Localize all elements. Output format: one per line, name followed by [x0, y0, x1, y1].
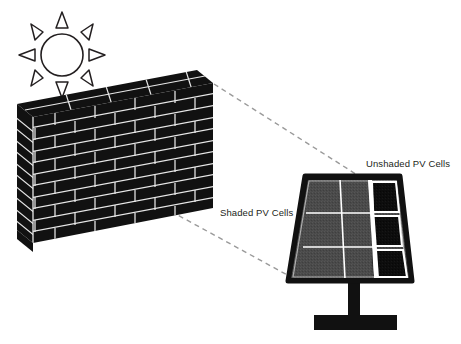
sun-ray-se	[81, 70, 93, 86]
label-unshaded-pv-cells: Unshaded PV Cells	[366, 158, 450, 169]
pv-shading-diagram: Unshaded PV Cells Shaded PV Cells	[0, 0, 461, 344]
brick-wall	[14, 43, 216, 252]
stand-base	[314, 315, 397, 330]
solar-panel	[288, 176, 412, 330]
sun-icon	[19, 12, 105, 98]
label-shaded-pv-cells: Shaded PV Cells	[220, 207, 293, 218]
sun-ray-w	[19, 49, 35, 61]
stand-pole	[348, 281, 360, 318]
sun-ray-sw	[31, 70, 43, 86]
panel-cell-unshaded-1	[370, 182, 398, 211]
diagram-canvas: Unshaded PV Cells Shaded PV Cells	[0, 0, 461, 344]
sun-disc	[41, 34, 83, 76]
sun-ray-e	[89, 49, 105, 61]
leader-line-unshaded	[214, 84, 362, 178]
sun-ray-ne	[81, 24, 93, 40]
sun-ray-nw	[31, 24, 43, 40]
sun-ray-n	[56, 12, 68, 28]
